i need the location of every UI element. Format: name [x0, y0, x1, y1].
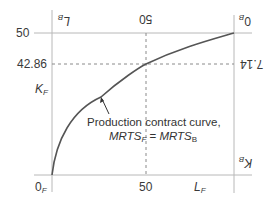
tick-bottom-50: 50	[139, 181, 152, 193]
origin-firm-f: 0F	[35, 181, 47, 195]
contract-curve-caption: Production contract curve, MRTSF = MRTSB	[87, 115, 221, 147]
caption-line-1: Production contract curve,	[87, 115, 221, 129]
caption-line-2: MRTSF = MRTSB	[87, 129, 221, 147]
contract-curve	[52, 33, 234, 175]
tick-left-50: 50	[16, 27, 29, 39]
top-axis-label-lb: LB	[58, 13, 70, 27]
tick-right-7-14: 7.14	[240, 58, 263, 70]
right-axis-label-kb: KB	[239, 155, 252, 169]
tick-top-50: 50	[139, 13, 152, 25]
tick-left-42-86: 42.86	[17, 58, 47, 70]
y-axis-label-kf: KF	[35, 83, 48, 97]
x-axis-label-lf: LF	[194, 181, 206, 195]
origin-firm-b: 0B	[239, 13, 251, 27]
